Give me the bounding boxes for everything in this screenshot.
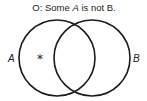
title-term-a: A (71, 2, 78, 13)
set-a-circle (19, 20, 95, 96)
proposition-type: O: (32, 2, 42, 13)
title-term-b: B. (107, 2, 116, 13)
title-word-some: Some (42, 2, 72, 13)
venn-diagram: O: Some A is not B. A B * (0, 0, 147, 101)
set-b-label: B (133, 53, 140, 64)
diagram-title: O: Some A is not B. (32, 2, 115, 13)
set-a-label: A (7, 53, 15, 64)
asterisk-mark-icon: * (37, 52, 43, 66)
title-word-is-not: is not (79, 2, 107, 13)
set-b-circle (54, 20, 130, 96)
